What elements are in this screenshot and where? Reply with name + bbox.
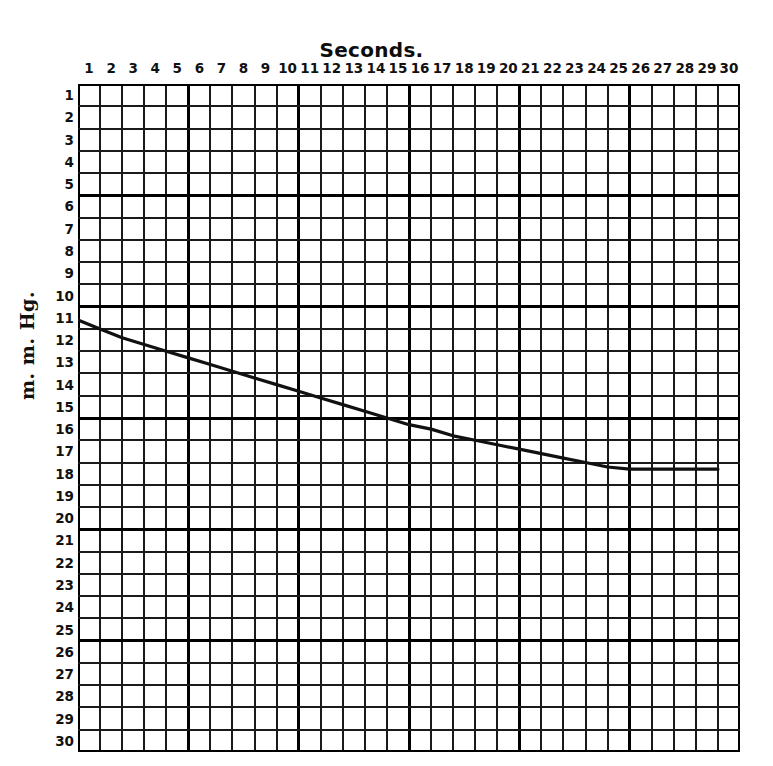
y-tick-label-28: 28 [55, 686, 74, 706]
y-tick-label-12: 12 [55, 330, 74, 350]
plot-area [78, 84, 740, 752]
y-tick-label-10: 10 [55, 286, 74, 306]
y-tick-label-30: 30 [55, 731, 74, 751]
x-tick-label-30: 30 [714, 60, 744, 76]
chart-title: Seconds. [0, 38, 758, 62]
y-tick-label-16: 16 [55, 419, 74, 439]
y-tick-label-11: 11 [55, 308, 74, 328]
y-tick-label-3: 3 [65, 130, 74, 150]
data-series-line [78, 84, 740, 752]
y-tick-label-4: 4 [65, 152, 74, 172]
y-axis-title: m. m. Hg. [16, 291, 38, 400]
y-tick-label-6: 6 [65, 196, 74, 216]
y-tick-label-13: 13 [55, 352, 74, 372]
y-tick-label-23: 23 [55, 575, 74, 595]
y-tick-label-24: 24 [55, 597, 74, 617]
chart-figure: Seconds. m. m. Hg. 123456789101112131415… [0, 0, 773, 766]
y-tick-label-20: 20 [55, 508, 74, 528]
y-tick-label-9: 9 [65, 263, 74, 283]
y-tick-label-18: 18 [55, 464, 74, 484]
y-tick-label-14: 14 [55, 375, 74, 395]
y-tick-label-5: 5 [65, 174, 74, 194]
y-tick-label-22: 22 [55, 553, 74, 573]
y-tick-label-2: 2 [65, 107, 74, 127]
y-tick-label-25: 25 [55, 620, 74, 640]
y-tick-label-27: 27 [55, 664, 74, 684]
y-tick-label-17: 17 [55, 441, 74, 461]
x-axis-tick-labels: 1234567891011121314151617181920212223242… [78, 60, 740, 82]
y-axis-tick-labels: 1234567891011121314151617181920212223242… [38, 84, 74, 752]
y-tick-label-19: 19 [55, 486, 74, 506]
y-tick-label-29: 29 [55, 709, 74, 729]
y-tick-label-15: 15 [55, 397, 74, 417]
y-tick-label-1: 1 [65, 85, 74, 105]
y-tick-label-21: 21 [55, 530, 74, 550]
y-tick-label-26: 26 [55, 642, 74, 662]
y-tick-label-8: 8 [65, 241, 74, 261]
y-tick-label-7: 7 [65, 219, 74, 239]
